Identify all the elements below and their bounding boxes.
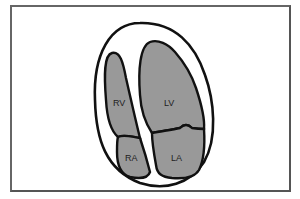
heart-diagram: RV LV RA LA [0,0,300,199]
label-lv: LV [164,98,174,108]
chamber-la [152,125,204,178]
label-ra: RA [125,153,138,163]
label-la: LA [171,153,182,163]
label-rv: RV [113,98,125,108]
